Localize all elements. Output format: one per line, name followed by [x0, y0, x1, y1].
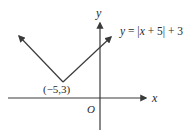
equation-label: y = |x + 5| + 3 [119, 25, 183, 38]
graph-left-ray [19, 36, 63, 82]
vertex-label: (−5,3) [43, 83, 71, 96]
equation-equals: = [125, 25, 137, 37]
equation-inner: + 5 [145, 25, 163, 37]
y-axis-label: y [95, 6, 102, 20]
graph-right-ray [63, 37, 111, 82]
equation-tail: + 3 [165, 25, 183, 37]
origin-label: O [87, 103, 95, 115]
graph-diagram: y x O (−5,3) y = |x + 5| + 3 [0, 0, 195, 133]
x-axis-label: x [151, 91, 158, 105]
